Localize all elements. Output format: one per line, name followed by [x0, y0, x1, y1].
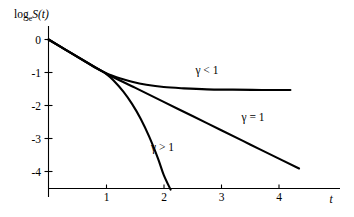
y-tick-label-0: 0 — [35, 34, 41, 46]
y-tick-label-minus2: -2 — [31, 100, 41, 112]
x-tick-label-4: 4 — [276, 191, 282, 203]
plot-canvas: logeS(t) 0 -1 -2 -3 -4 1 2 3 4 t — [0, 0, 354, 217]
annotation-gamma-greater-than-1: γ > 1 — [150, 141, 174, 154]
x-axis-label: t — [329, 193, 333, 205]
y-tick-label-minus4: -4 — [31, 166, 41, 178]
x-tick-label-2: 2 — [161, 191, 167, 203]
x-tick-label-1: 1 — [104, 191, 110, 203]
survival-curve-figure: logeS(t) 0 -1 -2 -3 -4 1 2 3 4 t — [0, 0, 354, 217]
y-tick-label-minus1: -1 — [31, 67, 41, 79]
y-axis-label: logeS(t) — [14, 8, 49, 23]
x-tick-label-3: 3 — [219, 191, 225, 203]
annotation-gamma-less-than-1: γ < 1 — [194, 64, 218, 77]
annotation-gamma-equal-1: γ = 1 — [241, 111, 265, 124]
curve-gamma-greater-than-1 — [49, 40, 171, 190]
y-tick-label-minus3: -3 — [31, 133, 41, 145]
curve-gamma-less-than-1 — [49, 40, 291, 91]
